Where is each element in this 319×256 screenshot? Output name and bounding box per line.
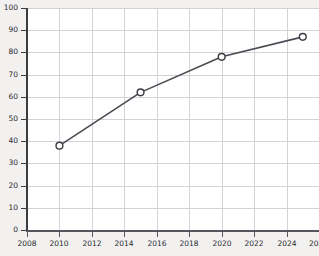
y-tick-label: 50 bbox=[8, 115, 18, 123]
y-tick-label: 80 bbox=[8, 48, 18, 56]
x-tick-label: 2008 bbox=[17, 240, 36, 248]
x-tick-label: 2012 bbox=[82, 240, 101, 248]
x-tick-label: 2016 bbox=[147, 240, 166, 248]
y-tick-label: 90 bbox=[8, 26, 18, 34]
x-tick-mark bbox=[189, 231, 190, 237]
x-tick-mark bbox=[92, 231, 93, 237]
y-tick-label: 40 bbox=[8, 137, 18, 145]
y-tick-label: 100 bbox=[4, 4, 18, 12]
x-tick-mark bbox=[254, 231, 255, 237]
x-tick-mark bbox=[59, 231, 60, 237]
line-chart: 0102030405060708090100 20082010201220142… bbox=[0, 0, 319, 256]
x-tick-label: 202 bbox=[309, 240, 319, 248]
y-tick-mark bbox=[21, 141, 27, 142]
x-tick-mark bbox=[157, 231, 158, 237]
x-tick-mark bbox=[287, 231, 288, 237]
y-tick-mark bbox=[21, 8, 27, 9]
data-series-line bbox=[27, 8, 319, 230]
x-axis-label-clip: 200820102012201420162018202020222024202 bbox=[0, 236, 319, 256]
y-tick-mark bbox=[21, 52, 27, 53]
x-tick-label: 2022 bbox=[244, 240, 263, 248]
y-tick-mark bbox=[21, 97, 27, 98]
y-tick-label: 30 bbox=[8, 159, 18, 167]
x-tick-label: 2024 bbox=[277, 240, 296, 248]
x-tick-label: 2014 bbox=[114, 240, 133, 248]
x-tick-label: 2020 bbox=[212, 240, 231, 248]
x-tick-mark bbox=[27, 231, 28, 237]
y-tick-label: 10 bbox=[8, 204, 18, 212]
data-point-marker bbox=[218, 53, 225, 60]
y-tick-mark bbox=[21, 30, 27, 31]
y-tick-label: 0 bbox=[13, 226, 18, 234]
y-tick-mark bbox=[21, 163, 27, 164]
x-tick-label: 2010 bbox=[49, 240, 68, 248]
y-tick-label: 20 bbox=[8, 182, 18, 190]
x-axis-line bbox=[26, 230, 319, 232]
data-point-marker bbox=[137, 89, 144, 96]
x-tick-mark bbox=[124, 231, 125, 237]
data-point-marker bbox=[56, 142, 63, 149]
series-markers bbox=[56, 33, 306, 149]
y-tick-label: 60 bbox=[8, 93, 18, 101]
y-tick-mark bbox=[21, 208, 27, 209]
series-polyline bbox=[59, 37, 302, 146]
data-point-marker bbox=[299, 33, 306, 40]
x-tick-mark bbox=[222, 231, 223, 237]
y-tick-label: 70 bbox=[8, 71, 18, 79]
y-tick-mark bbox=[21, 186, 27, 187]
y-tick-mark bbox=[21, 119, 27, 120]
plot-area bbox=[27, 8, 319, 230]
y-tick-mark bbox=[21, 75, 27, 76]
x-tick-label: 2018 bbox=[179, 240, 198, 248]
